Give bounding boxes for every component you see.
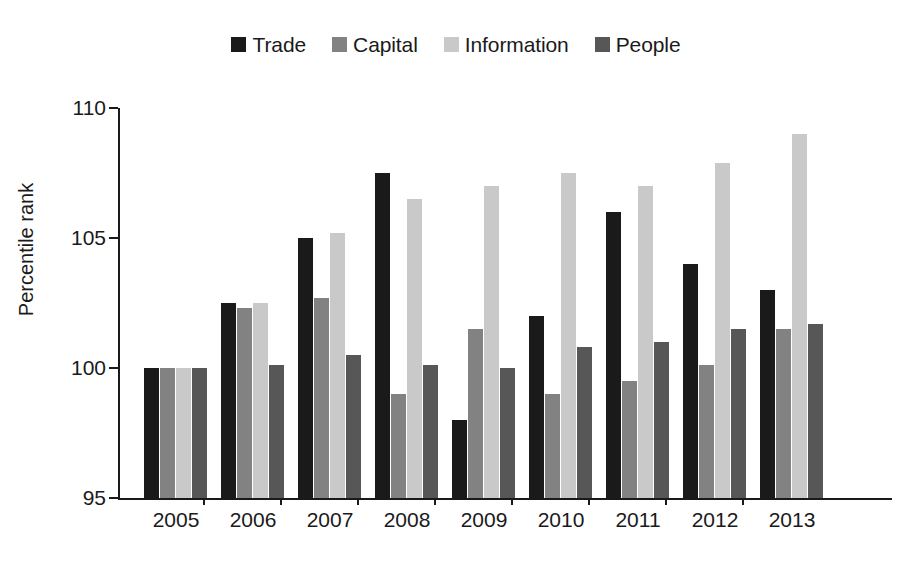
legend-swatch-icon (332, 37, 347, 52)
bar-information-2013[interactable] (792, 134, 807, 498)
y-tick-label: 100 (71, 357, 106, 378)
bar-capital-2009[interactable] (468, 329, 483, 498)
bar-information-2006[interactable] (253, 303, 268, 498)
x-tick-label-2005: 2005 (136, 508, 216, 532)
bar-group-2012 (683, 108, 747, 498)
legend-item-capital[interactable]: Capital (332, 34, 418, 55)
bar-information-2010[interactable] (561, 173, 576, 498)
bar-capital-2012[interactable] (699, 365, 714, 498)
x-tick-label-2010: 2010 (521, 508, 601, 532)
y-tick-label: 95 (83, 487, 106, 508)
plot-area: 95100105110 (118, 108, 892, 498)
bar-information-2008[interactable] (407, 199, 422, 498)
x-tick-mark (357, 498, 359, 505)
bar-people-2010[interactable] (577, 347, 592, 498)
x-tick-mark (203, 498, 205, 505)
x-tick-mark (742, 498, 744, 505)
bar-group-2008 (375, 108, 439, 498)
legend-label: Trade (252, 34, 306, 55)
bar-group-2010 (529, 108, 593, 498)
bar-group-2006 (221, 108, 285, 498)
y-tick-mark (109, 107, 118, 109)
bar-capital-2006[interactable] (237, 308, 252, 498)
bar-capital-2005[interactable] (160, 368, 175, 498)
bar-people-2013[interactable] (808, 324, 823, 498)
y-tick-label: 110 (73, 97, 106, 118)
x-tick-label-2012: 2012 (675, 508, 755, 532)
x-axis-tick-labels: 200520062007200820092010201120122013 (120, 508, 892, 542)
bar-information-2011[interactable] (638, 186, 653, 498)
y-tick-label: 105 (71, 227, 106, 248)
y-tick-mark (109, 497, 118, 499)
bar-people-2007[interactable] (346, 355, 361, 498)
bar-group-2005 (144, 108, 208, 498)
bar-people-2012[interactable] (731, 329, 746, 498)
x-axis-line (118, 498, 892, 500)
legend-item-information[interactable]: Information (444, 34, 569, 55)
x-tick-label-2011: 2011 (598, 508, 678, 532)
legend-swatch-icon (231, 37, 246, 52)
bar-people-2009[interactable] (500, 368, 515, 498)
legend-swatch-icon (595, 37, 610, 52)
bar-information-2005[interactable] (176, 368, 191, 498)
bar-people-2006[interactable] (269, 365, 284, 498)
x-tick-mark (511, 498, 513, 505)
legend-item-people[interactable]: People (595, 34, 681, 55)
bar-trade-2006[interactable] (221, 303, 236, 498)
bar-group-2007 (298, 108, 362, 498)
bar-chart: TradeCapitalInformationPeople Percentile… (0, 0, 912, 561)
bar-people-2011[interactable] (654, 342, 669, 498)
x-tick-mark (588, 498, 590, 505)
bar-capital-2010[interactable] (545, 394, 560, 498)
legend-label: Capital (353, 34, 418, 55)
bar-trade-2007[interactable] (298, 238, 313, 498)
x-tick-label-2013: 2013 (752, 508, 832, 532)
bar-information-2007[interactable] (330, 233, 345, 498)
x-tick-mark (280, 498, 282, 505)
bar-information-2009[interactable] (484, 186, 499, 498)
x-tick-mark (665, 498, 667, 505)
x-tick-mark (434, 498, 436, 505)
bar-information-2012[interactable] (715, 163, 730, 498)
bar-capital-2008[interactable] (391, 394, 406, 498)
bar-trade-2011[interactable] (606, 212, 621, 498)
y-axis-title-text: Percentile rank (16, 182, 39, 315)
y-tick-mark (109, 367, 118, 369)
x-tick-label-2007: 2007 (290, 508, 370, 532)
legend-swatch-icon (444, 37, 459, 52)
bar-groups (120, 108, 892, 498)
bar-trade-2013[interactable] (760, 290, 775, 498)
x-tick-label-2006: 2006 (213, 508, 293, 532)
bar-people-2005[interactable] (192, 368, 207, 498)
bar-group-2011 (606, 108, 670, 498)
legend-label: Information (465, 34, 569, 55)
bar-trade-2008[interactable] (375, 173, 390, 498)
bar-capital-2011[interactable] (622, 381, 637, 498)
chart-legend: TradeCapitalInformationPeople (0, 34, 912, 55)
bar-trade-2010[interactable] (529, 316, 544, 498)
y-tick-mark (109, 237, 118, 239)
bar-trade-2005[interactable] (144, 368, 159, 498)
bar-trade-2012[interactable] (683, 264, 698, 498)
y-axis-tick-labels: 95100105110 (40, 108, 106, 498)
bar-capital-2013[interactable] (776, 329, 791, 498)
bar-group-2009 (452, 108, 516, 498)
x-tick-label-2009: 2009 (444, 508, 524, 532)
bar-capital-2007[interactable] (314, 298, 329, 498)
legend-label: People (616, 34, 681, 55)
x-tick-label-2008: 2008 (367, 508, 447, 532)
y-axis-title: Percentile rank (12, 0, 42, 498)
bar-trade-2009[interactable] (452, 420, 467, 498)
bar-group-2013 (760, 108, 824, 498)
legend-item-trade[interactable]: Trade (231, 34, 306, 55)
bar-people-2008[interactable] (423, 365, 438, 498)
